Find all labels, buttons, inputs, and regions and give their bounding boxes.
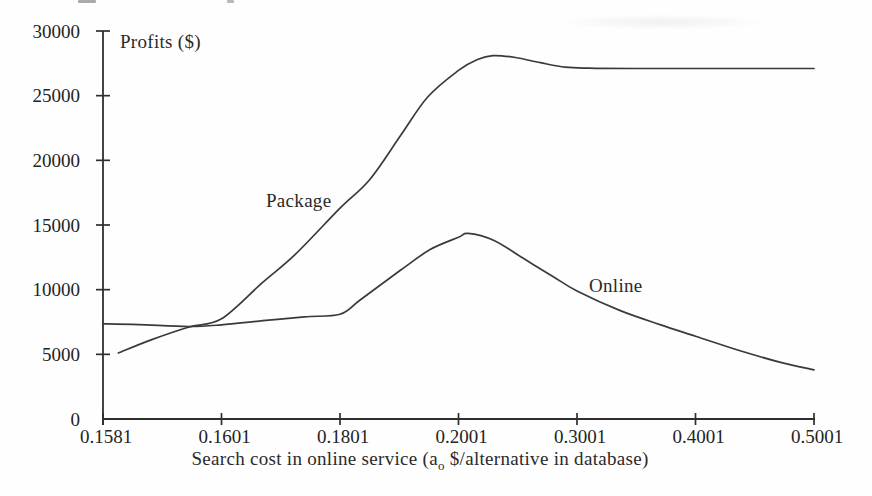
x-axis-title-subscript: o xyxy=(438,458,445,473)
chart-canvas: 0500010000150002000025000300000.15810.16… xyxy=(0,0,872,496)
series-label-online: Online xyxy=(589,275,643,297)
x-tick-label: 0.1601 xyxy=(198,426,250,447)
y-tick-label: 10000 xyxy=(33,279,81,300)
x-tick-label: 0.1581 xyxy=(80,426,132,447)
y-tick-label: 15000 xyxy=(33,215,81,236)
profit-vs-search-cost-chart: 0500010000150002000025000300000.15810.16… xyxy=(0,0,872,496)
y-tick-label: 20000 xyxy=(33,150,81,171)
y-tick-label: 5000 xyxy=(42,344,80,365)
curve-package xyxy=(118,56,814,353)
x-axis-title-post: $/alternative in database) xyxy=(445,448,649,469)
x-tick-label: 0.5001 xyxy=(791,426,843,447)
x-tick-label: 0.1801 xyxy=(317,426,369,447)
x-axis-title: Search cost in online service (ao $/alte… xyxy=(0,448,840,474)
x-axis-title-pre: Search cost in online service (a xyxy=(191,448,437,469)
y-axis-title: Profits ($) xyxy=(120,31,201,53)
x-tick-label: 0.2001 xyxy=(435,426,487,447)
y-tick-label: 25000 xyxy=(33,85,81,106)
x-tick-label: 0.4001 xyxy=(672,426,724,447)
y-tick-label: 30000 xyxy=(33,21,81,42)
series-label-package: Package xyxy=(266,190,331,212)
curve-online xyxy=(103,233,814,370)
x-tick-label: 0.3001 xyxy=(554,426,606,447)
y-tick-label: 0 xyxy=(71,409,81,430)
